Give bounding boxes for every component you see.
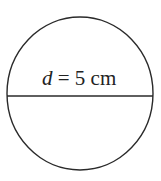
equals-sign: = — [53, 66, 75, 90]
diameter-unit: cm — [85, 66, 116, 90]
diameter-value: 5 — [75, 66, 86, 90]
circle-diagram: d = 5 cm — [0, 0, 161, 181]
diameter-label: d = 5 cm — [42, 66, 116, 90]
diameter-variable: d — [42, 66, 53, 90]
circle-outline — [7, 17, 153, 170]
